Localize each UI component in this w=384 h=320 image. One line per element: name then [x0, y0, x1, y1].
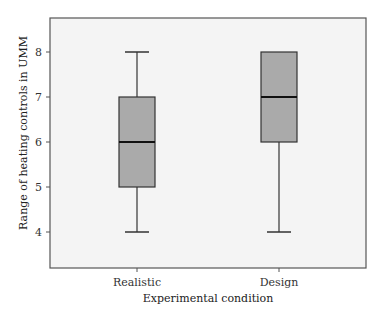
y-tick-label: 6 — [35, 136, 42, 149]
plot-area — [50, 18, 366, 268]
y-tick-label: 7 — [35, 91, 42, 104]
x-tick-label-realistic: Realistic — [113, 276, 161, 289]
x-axis-label: Experimental condition — [143, 292, 274, 305]
y-tick-label: 5 — [35, 181, 42, 194]
y-axis-ticks: 45678 — [35, 46, 50, 239]
y-axis-label: Range of heating controls in UMM — [17, 36, 30, 230]
y-tick-label: 8 — [35, 46, 42, 59]
box-plot-chart: 45678 RealisticDesign Experimental condi… — [0, 0, 384, 320]
x-axis-ticks: RealisticDesign — [113, 268, 298, 289]
y-tick-label: 4 — [35, 226, 42, 239]
x-tick-label-design: Design — [260, 276, 299, 289]
